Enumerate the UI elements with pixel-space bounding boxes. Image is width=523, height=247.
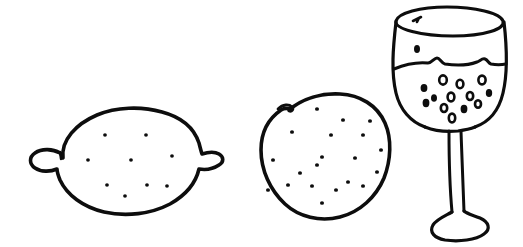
orange-speckle-dot: [320, 155, 324, 159]
lemon-speckle-dot: [165, 184, 169, 187]
orange-speckle-dot: [361, 184, 365, 188]
orange-speckle-dot: [341, 118, 345, 122]
wine-bubble-filled: [431, 94, 437, 102]
lemon-speckle-dot: [123, 194, 127, 197]
lemon-speckle-dot: [145, 183, 149, 186]
orange-speckle-dot: [310, 184, 314, 188]
wine-bubble-filled: [423, 99, 430, 107]
wine-bubble-filled: [414, 45, 420, 53]
lemon-speckle-dot: [103, 133, 107, 136]
wine-bubble-filled: [461, 105, 468, 113]
sketch-drawing-surface: [0, 0, 523, 247]
orange-speckle-dot: [346, 180, 350, 184]
wine-bubble-filled: [421, 84, 428, 92]
lemon-speckle-dot: [105, 183, 109, 186]
orange-speckle-dot: [379, 148, 383, 152]
orange-speckle-dot: [329, 133, 333, 137]
orange-speckle-dot: [375, 170, 379, 174]
orange-speckle-dot: [266, 188, 270, 192]
sketch-canvas: Hand-drawn sketch of a lemon, an orange …: [0, 0, 523, 247]
orange-speckle-dot: [271, 158, 275, 162]
orange-speckle-dot: [320, 201, 324, 205]
orange-speckle-dot: [315, 163, 319, 167]
orange-speckle-dot: [286, 183, 290, 187]
orange-speckle-dot: [298, 171, 302, 175]
lemon-speckle-dot: [170, 154, 174, 157]
orange-speckle-dot: [315, 107, 319, 111]
orange-speckle-dot: [353, 156, 357, 160]
lemon-left-nipple-crease: [60, 152, 61, 159]
wine-bubble-filled: [486, 89, 492, 97]
orange-speckle-dot: [368, 119, 372, 123]
orange-speckle-dot: [334, 188, 338, 192]
orange-speckle-dot: [361, 133, 365, 137]
lemon-speckle-dot: [129, 158, 133, 161]
lemon-speckle-dot: [144, 133, 148, 136]
orange-speckle-dot: [290, 130, 294, 134]
lemon-speckle-dot: [86, 158, 90, 161]
